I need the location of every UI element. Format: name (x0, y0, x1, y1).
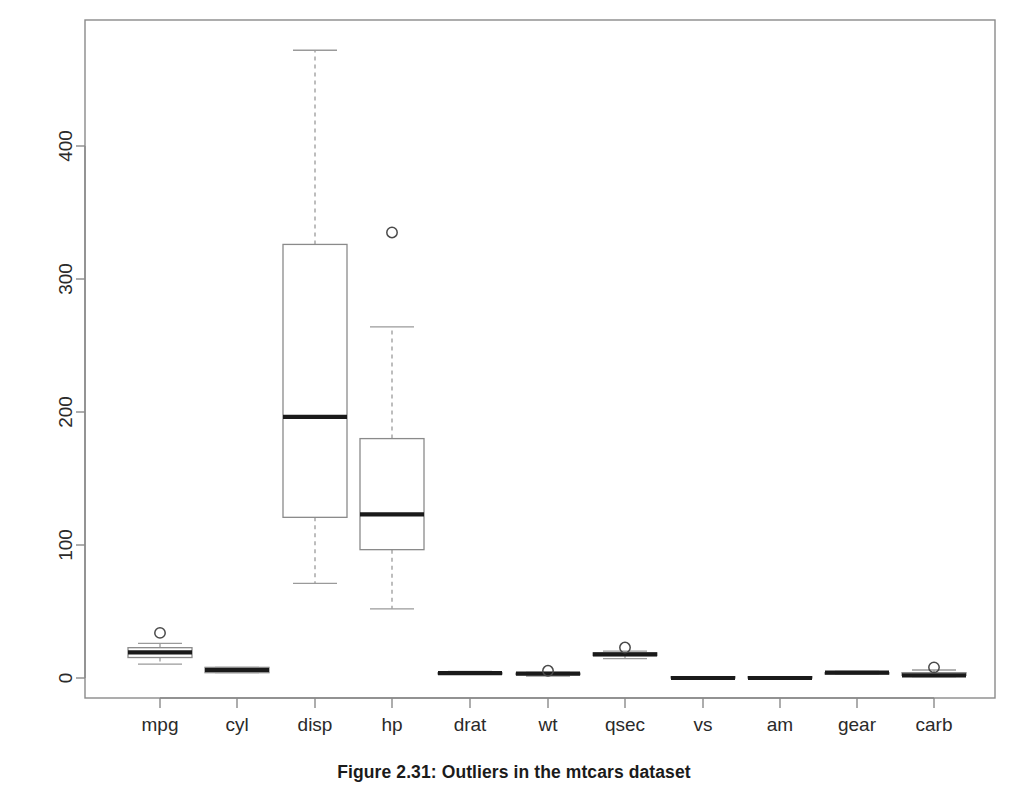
x-tick-label-mpg: mpg (142, 714, 179, 735)
y-tick-label: 200 (55, 396, 76, 428)
x-tick-label-vs: vs (694, 714, 713, 735)
boxplot-cyl[interactable] (205, 667, 269, 672)
x-tick-label-wt: wt (538, 714, 559, 735)
x-tick-label-qsec: qsec (605, 714, 645, 735)
figure-container: 0100200300400 mpgcyldisphpdratwtqsecvsam… (0, 0, 1028, 800)
x-tick-label-am: am (767, 714, 793, 735)
boxplot-drat[interactable] (438, 671, 502, 674)
y-tick-label: 0 (55, 673, 76, 684)
x-tick-label-cyl: cyl (225, 714, 248, 735)
y-tick-label: 400 (55, 130, 76, 162)
x-tick-label-carb: carb (916, 714, 953, 735)
boxplot-vs[interactable] (671, 677, 735, 678)
x-tick-label-gear: gear (838, 714, 877, 735)
figure-caption: Figure 2.31: Outliers in the mtcars data… (0, 762, 1028, 783)
chart-background (0, 0, 1028, 760)
y-tick-label: 300 (55, 263, 76, 295)
box-iqr[interactable] (283, 244, 347, 517)
boxplot-gear[interactable] (825, 671, 889, 674)
x-tick-label-hp: hp (381, 714, 402, 735)
box-iqr[interactable] (360, 439, 424, 550)
boxplot-am[interactable] (748, 677, 812, 678)
boxplot-chart: 0100200300400 mpgcyldisphpdratwtqsecvsam… (0, 0, 1028, 760)
x-tick-label-drat: drat (454, 714, 487, 735)
y-tick-label: 100 (55, 529, 76, 561)
x-tick-label-disp: disp (298, 714, 333, 735)
